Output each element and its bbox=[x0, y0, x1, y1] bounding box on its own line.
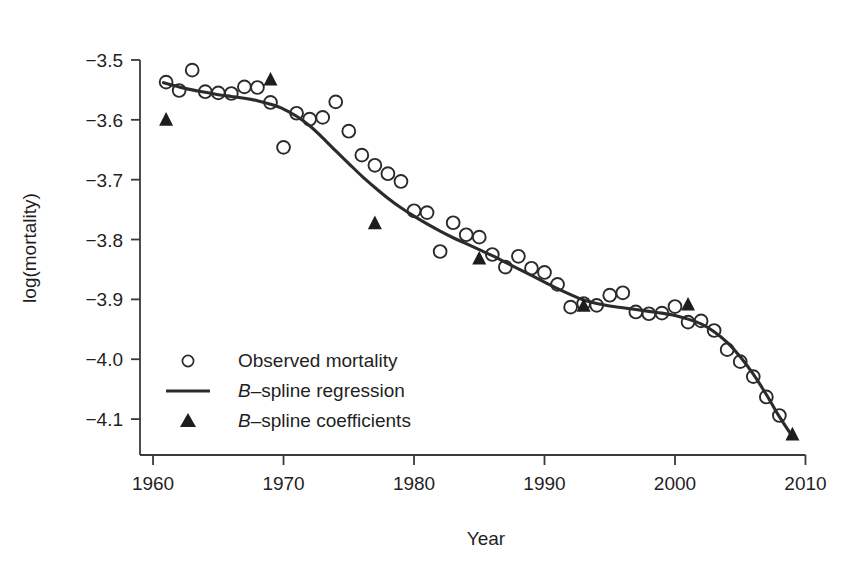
y-tick-label: −3.7 bbox=[85, 170, 123, 191]
legend-item-label: Observed mortality bbox=[238, 350, 398, 371]
chart-figure: −3.5−3.6−3.7−3.8−3.9−4.0−4.1 19601970198… bbox=[0, 0, 858, 580]
y-tick-label: −4.1 bbox=[85, 409, 123, 430]
x-tick-label: 2000 bbox=[654, 473, 696, 494]
y-tick-label: −3.6 bbox=[85, 110, 123, 131]
y-tick-label: −3.9 bbox=[85, 289, 123, 310]
legend-item-label: B–spline coefficients bbox=[238, 410, 411, 431]
x-tick-label: 2010 bbox=[784, 473, 826, 494]
y-axis-title: log(mortality) bbox=[19, 193, 40, 303]
x-tick-label: 1980 bbox=[393, 473, 435, 494]
legend-item-label: B–spline regression bbox=[238, 380, 405, 401]
y-tick-label: −3.5 bbox=[85, 50, 123, 71]
y-tick-label: −4.0 bbox=[85, 349, 123, 370]
x-axis-title: Year bbox=[467, 528, 506, 549]
y-tick-label: −3.8 bbox=[85, 230, 123, 251]
x-tick-label: 1970 bbox=[262, 473, 304, 494]
chart-svg: −3.5−3.6−3.7−3.8−3.9−4.0−4.1 19601970198… bbox=[0, 0, 858, 580]
x-tick-label: 1960 bbox=[132, 473, 174, 494]
x-tick-label: 1990 bbox=[523, 473, 565, 494]
